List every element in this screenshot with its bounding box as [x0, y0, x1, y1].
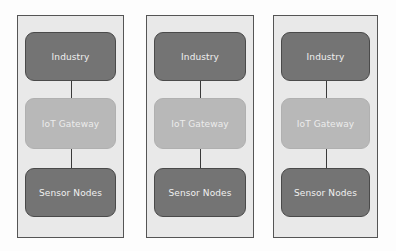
sensor-nodes-label: Sensor Nodes: [294, 188, 357, 198]
iot-gateway-label: IoT Gateway: [42, 119, 99, 129]
industry-label: Industry: [307, 52, 345, 62]
iot-gateway-node: IoT Gateway: [281, 98, 370, 149]
iot-gateway-node: IoT Gateway: [154, 98, 246, 149]
panel-2: Industry IoT Gateway Sensor Nodes: [146, 15, 254, 238]
sensor-nodes-node: Sensor Nodes: [281, 168, 370, 217]
connector-line: [326, 81, 327, 98]
sensor-nodes-node: Sensor Nodes: [25, 168, 116, 217]
panel-1: Industry IoT Gateway Sensor Nodes: [17, 15, 124, 238]
industry-label: Industry: [181, 52, 219, 62]
panel-3: Industry IoT Gateway Sensor Nodes: [273, 15, 378, 238]
sensor-nodes-node: Sensor Nodes: [154, 168, 246, 217]
diagram-canvas: Industry IoT Gateway Sensor Nodes Indust…: [0, 0, 396, 251]
iot-gateway-label: IoT Gateway: [297, 119, 354, 129]
connector-line: [326, 149, 327, 168]
iot-gateway-node: IoT Gateway: [25, 98, 116, 149]
industry-node: Industry: [25, 32, 116, 81]
connector-line: [71, 81, 72, 98]
connector-line: [71, 149, 72, 168]
connector-line: [200, 149, 201, 168]
industry-node: Industry: [281, 32, 370, 81]
industry-label: Industry: [52, 52, 90, 62]
connector-line: [200, 81, 201, 98]
iot-gateway-label: IoT Gateway: [171, 119, 228, 129]
industry-node: Industry: [154, 32, 246, 81]
sensor-nodes-label: Sensor Nodes: [39, 188, 102, 198]
sensor-nodes-label: Sensor Nodes: [168, 188, 231, 198]
